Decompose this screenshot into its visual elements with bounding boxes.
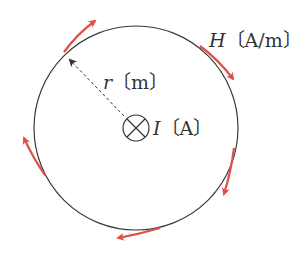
current-label: I〔A〕 bbox=[152, 117, 212, 139]
radius-label: r〔m〕 bbox=[103, 71, 168, 93]
field-arrow-left bbox=[24, 138, 45, 175]
current-into-page-icon bbox=[123, 115, 149, 141]
field-arrow-right bbox=[224, 148, 234, 194]
ampere-law-diagram: r〔m〕 I〔A〕 H〔A/m〕 bbox=[0, 0, 305, 255]
field-strength-label: H〔A/m〕 bbox=[208, 29, 302, 51]
